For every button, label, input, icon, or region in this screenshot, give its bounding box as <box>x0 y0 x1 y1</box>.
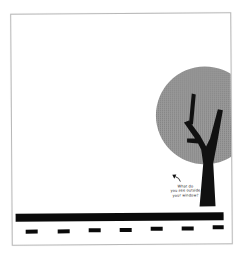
illustration-art <box>11 13 233 246</box>
illustration-stage: What do you see outside your window? <box>0 0 241 254</box>
caption: What do you see outside your window? <box>160 184 210 198</box>
lane-dashes <box>26 225 224 233</box>
road <box>16 212 224 221</box>
arrow-icon <box>172 175 180 182</box>
caption-line-3: your window? <box>160 193 210 198</box>
illustration-page: What do you see outside your window? <box>10 12 233 246</box>
